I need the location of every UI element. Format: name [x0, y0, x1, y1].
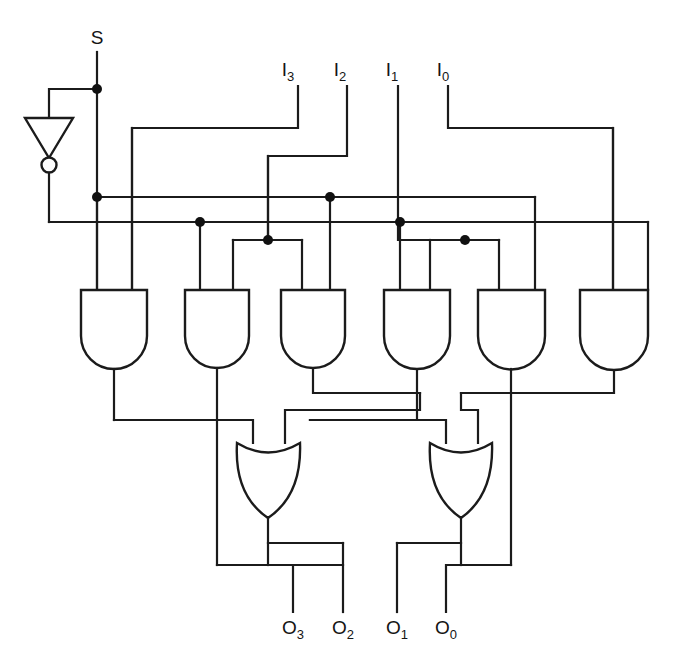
input-lead-I0 [448, 86, 613, 290]
schematic-canvas: S I3 I2 I1 I0 O3 O2 O1 O0 [0, 0, 674, 663]
output-labels: O3 O2 O1 O0 [282, 617, 457, 642]
and-gate-2 [185, 290, 249, 565]
input-label-I2: I2 [334, 59, 347, 84]
input-labels: S I3 I2 I1 I0 [91, 27, 450, 84]
input-label-S: S [91, 27, 104, 48]
i1-fanout-saddle [430, 240, 499, 290]
junction-dots [92, 84, 470, 245]
inverter-not-gate [25, 89, 97, 222]
input-label-I0: I0 [437, 59, 450, 84]
input-lead-I3 [132, 86, 298, 290]
output-label-O2: O2 [332, 617, 354, 642]
input-label-I3: I3 [282, 59, 295, 84]
or1-input-routing [114, 393, 420, 443]
output-label-O1: O1 [386, 617, 408, 642]
and-gate-5 [478, 290, 545, 565]
input-lead-I1 [398, 86, 465, 240]
circuit-schematic: S I3 I2 I1 I0 O3 O2 O1 O0 [0, 0, 674, 663]
output-route-O0 [446, 565, 511, 612]
or2-input-routing [310, 393, 478, 443]
output-route-O3 [217, 565, 293, 612]
i2-fanout-saddle [233, 240, 302, 290]
output-label-O0: O0 [435, 617, 457, 642]
or-gate-2 [430, 443, 492, 565]
input-label-I1: I1 [386, 59, 399, 84]
output-route-O2 [268, 543, 343, 612]
or-gate-1 [237, 443, 300, 565]
output-label-O3: O3 [282, 617, 304, 642]
input-lead-I2 [268, 86, 347, 240]
s-bus-line [97, 197, 535, 290]
sbar-bus-line [49, 222, 648, 290]
and-gate-1 [81, 290, 147, 420]
